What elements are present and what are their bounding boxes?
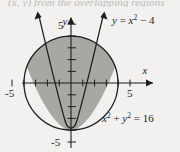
- parabola-eq-equals: =: [117, 14, 129, 26]
- circle-eq-tail: = 16: [131, 112, 154, 124]
- circle-equation-label: x2 + y2 = 16: [101, 111, 154, 124]
- y-tick-label-5: 5: [58, 19, 64, 31]
- parabola-equation-label: y = x2 − 4: [111, 13, 155, 26]
- coordinate-plot: x y -5 5 5 -5 y = x2 − 4 x2 + y2 = 16: [0, 0, 180, 152]
- parabola-left-arrowhead: [35, 12, 42, 20]
- circle-eq-plus: +: [111, 112, 123, 124]
- parabola-eq-tail: − 4: [137, 14, 155, 26]
- figure-root: (x, y) from the overlapping regions: [0, 0, 180, 152]
- x-axis-label: x: [142, 64, 148, 76]
- y-axis-arrowhead: [68, 17, 75, 24]
- y-tick-label--5: -5: [51, 136, 61, 148]
- x-tick-label--5: -5: [5, 87, 15, 99]
- x-tick-label-5: 5: [127, 87, 133, 99]
- x-axis-arrowhead: [146, 80, 153, 87]
- parabola-right-arrowhead: [100, 12, 107, 20]
